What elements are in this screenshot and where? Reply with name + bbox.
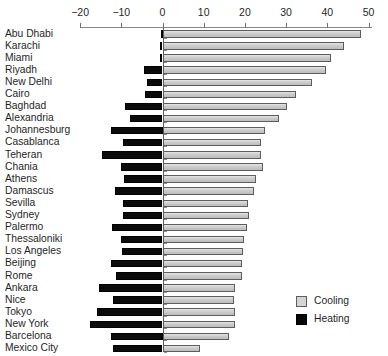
row-tick <box>164 62 167 63</box>
cooling-bar <box>163 345 200 352</box>
bar-row: Palermo <box>0 222 388 234</box>
category-label-text: Athens <box>5 173 37 185</box>
category-label-text: Karachi <box>5 40 40 52</box>
heating-bar <box>121 236 162 243</box>
x-axis: −20−1001020304050 <box>0 0 388 30</box>
category-label-text: Rome <box>5 270 32 282</box>
cooling-bar <box>163 91 296 98</box>
row-tick <box>164 195 167 196</box>
category-label-text: Palermo <box>5 221 43 233</box>
heating-bar <box>113 296 163 303</box>
row-tick <box>164 74 167 75</box>
row-tick <box>164 255 167 256</box>
category-label-text: Beijing <box>5 257 36 269</box>
row-tick <box>164 304 167 305</box>
row-tick <box>164 122 167 123</box>
bar-row: New Delhi <box>0 76 388 88</box>
cooling-bar <box>163 42 344 49</box>
heating-bar <box>130 115 162 122</box>
cooling-bar <box>163 175 257 182</box>
cooling-bar <box>163 103 287 110</box>
heating-swatch-icon <box>296 314 307 325</box>
heating-bar <box>111 260 163 267</box>
category-label-text: Sydney <box>5 209 39 221</box>
cooling-bar <box>163 66 326 73</box>
bar-row: Teheran <box>0 149 388 161</box>
heating-bar <box>145 91 162 98</box>
legend-item-heating: Heating <box>296 310 384 328</box>
cooling-bar <box>163 333 230 340</box>
legend-label-cooling: Cooling <box>314 295 349 307</box>
heating-bar <box>123 139 163 146</box>
bar-row: Mexico City <box>0 343 388 355</box>
heating-bar <box>121 163 163 170</box>
category-label-text: Abu Dhabi <box>5 28 53 40</box>
cooling-bar <box>163 54 332 61</box>
row-tick <box>164 146 167 147</box>
legend-label-heating: Heating <box>314 313 350 325</box>
category-label-text: Thessaloniki <box>5 233 62 245</box>
row-tick <box>164 267 167 268</box>
cooling-bar <box>163 272 243 279</box>
row-tick <box>164 316 167 317</box>
bar-row: Karachi <box>0 40 388 52</box>
row-tick <box>164 207 167 208</box>
bar-row: Barcelona <box>0 331 388 343</box>
heating-bar <box>147 79 162 86</box>
cooling-bar <box>163 127 265 134</box>
heating-bar <box>115 187 162 194</box>
category-label-text: Damascus <box>5 185 54 197</box>
heating-bar <box>123 200 163 207</box>
heating-bar <box>144 66 163 73</box>
cooling-bar <box>163 115 279 122</box>
row-tick <box>164 159 167 160</box>
category-label-text: Tokyo <box>5 306 32 318</box>
category-label-text: Cairo <box>5 88 30 100</box>
row-tick <box>164 280 167 281</box>
category-label-text: Riyadh <box>5 64 37 76</box>
cooling-bar <box>163 187 254 194</box>
category-label-text: Barcelona <box>5 330 51 342</box>
category-label-text: Mexico City <box>5 342 58 354</box>
axis-tick-label: 50 <box>363 7 375 18</box>
cooling-bar <box>163 151 261 158</box>
bar-row: Damascus <box>0 185 388 197</box>
row-tick <box>164 183 167 184</box>
bar-row: Beijing <box>0 258 388 270</box>
axis-tick-label: −10 <box>112 7 130 18</box>
cooling-bar <box>163 248 243 255</box>
row-tick <box>164 340 167 341</box>
heating-bar <box>99 284 162 291</box>
cooling-bar <box>163 236 244 243</box>
row-tick <box>164 86 167 87</box>
cooling-bar <box>163 163 263 170</box>
cooling-bar <box>163 308 236 315</box>
category-label-text: Miami <box>5 52 32 64</box>
cooling-bar <box>163 224 247 231</box>
bar-row: Sydney <box>0 210 388 222</box>
heating-bar <box>124 175 163 182</box>
category-label-text: New York <box>5 318 49 330</box>
heating-bar <box>111 333 163 340</box>
category-label-text: Alexandria <box>5 112 54 124</box>
heating-bar <box>102 151 162 158</box>
heating-bar <box>161 30 163 37</box>
axis-tick-label: 10 <box>198 7 210 18</box>
row-tick <box>164 352 167 353</box>
bar-row: Sevilla <box>0 197 388 209</box>
row-tick <box>164 171 167 172</box>
bar-row: Los Angeles <box>0 246 388 258</box>
cooling-bar <box>163 139 261 146</box>
bar-row: Baghdad <box>0 101 388 113</box>
bar-row: Johannesburg <box>0 125 388 137</box>
bar-row: Rome <box>0 270 388 282</box>
category-label-text: Casablanca <box>5 136 59 148</box>
row-tick <box>164 231 167 232</box>
row-tick <box>164 98 167 99</box>
heating-bar <box>113 345 163 352</box>
heating-bar <box>111 127 163 134</box>
cooling-bar <box>163 79 313 86</box>
category-label-text: New Delhi <box>5 76 52 88</box>
cooling-swatch-icon <box>296 296 307 307</box>
row-tick <box>164 38 167 39</box>
